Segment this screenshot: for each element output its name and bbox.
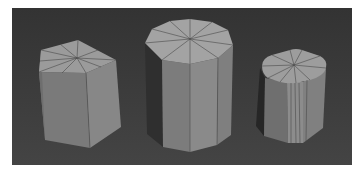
rounded-cylinder	[256, 49, 326, 143]
pentagonal-prism	[39, 40, 121, 148]
decagonal-prism	[145, 19, 233, 152]
scene-render	[0, 0, 361, 174]
